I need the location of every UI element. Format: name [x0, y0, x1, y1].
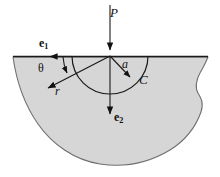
label-unit-vector-e1: e1 — [39, 37, 48, 51]
half-space-diagram — [0, 0, 220, 177]
label-e2-subscript: 2 — [119, 116, 123, 125]
label-e1-subscript: 1 — [44, 42, 48, 51]
label-arc-radius-a: a — [122, 58, 128, 70]
label-unit-vector-e2: e2 — [114, 111, 123, 125]
label-angle-theta: θ — [38, 62, 44, 74]
label-load-P: P — [110, 6, 118, 19]
figure-container: P e1 θ r a C e2 — [0, 0, 220, 177]
label-radius-r: r — [55, 85, 60, 97]
label-contour-C: C — [139, 73, 148, 86]
